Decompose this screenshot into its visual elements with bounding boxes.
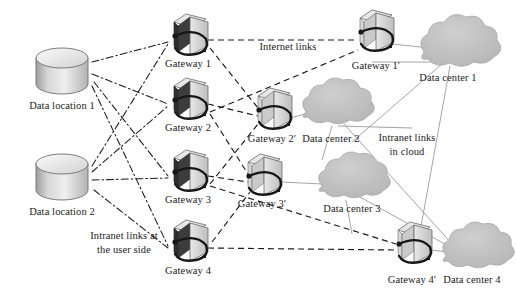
- server-gateway-3: [172, 150, 208, 191]
- annotation-user-links-line1: Intranet links at: [90, 230, 158, 242]
- cloud-dc2: [303, 78, 375, 124]
- label-data-center-1: Data center 1: [419, 72, 476, 84]
- label-gateway-1: Gateway 1: [165, 58, 211, 70]
- label-gateway-1-prime: Gateway 1′: [352, 60, 401, 72]
- annotation-user-links-line2: the user side: [97, 244, 151, 256]
- label-data-center-2: Data center 2: [302, 133, 359, 145]
- server-gateway-4-prime: [396, 222, 432, 263]
- label-data-center-3: Data center 3: [323, 203, 380, 215]
- label-data-center-4: Data center 4: [443, 274, 500, 286]
- cylinder-data-location-2: [36, 154, 88, 200]
- label-gateway-3: Gateway 3: [165, 194, 211, 206]
- label-gateway-3-prime: Gateway 3′: [238, 198, 287, 210]
- cylinder-data-location-1: [36, 48, 88, 94]
- annotation-cloud-links-line2: in cloud: [390, 146, 425, 158]
- annotation-cloud-links-line1: Intranet links: [378, 132, 435, 144]
- cloud-dc3: [319, 152, 391, 198]
- server-gateway-3-prime: [246, 154, 282, 195]
- label-data-location-2: Data location 2: [29, 206, 95, 218]
- cloud-dc1: [421, 14, 501, 66]
- server-gateway-4: [172, 220, 208, 261]
- intranet-user-side-links: [92, 42, 168, 248]
- label-gateway-2: Gateway 2: [165, 122, 211, 134]
- diagram-links-layer: [0, 0, 516, 299]
- server-gateway-2: [172, 78, 208, 119]
- cloud-dc4: [443, 222, 515, 268]
- network-diagram: Data location 1 Data location 2 Gateway …: [0, 0, 516, 299]
- label-gateway-4-prime: Gateway 4′: [388, 274, 437, 286]
- label-gateway-2-prime: Gateway 2′: [248, 133, 297, 145]
- label-gateway-4: Gateway 4: [165, 265, 211, 277]
- server-gateway-1-prime: [358, 10, 394, 51]
- server-gateway-1: [172, 14, 208, 55]
- annotation-internet-links: Internet links: [259, 41, 316, 53]
- server-gateway-2-prime: [256, 88, 292, 129]
- label-data-location-1: Data location 1: [29, 100, 95, 112]
